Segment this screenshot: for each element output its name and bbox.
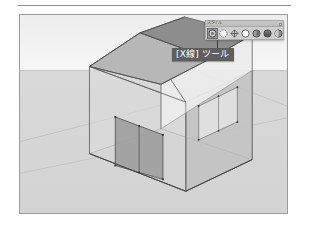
callout-label: [X線] ツール <box>172 48 234 61</box>
page-top-rule <box>18 5 291 6</box>
toolbar-title-bar[interactable]: スタイル <box>206 21 283 27</box>
house-xray-model <box>20 15 287 213</box>
hidden-line-tool-button[interactable] <box>240 28 251 39</box>
callout-text: [X線] ツール <box>176 48 230 61</box>
monochrome-icon <box>274 29 283 38</box>
xray-icon <box>208 29 217 38</box>
shaded-tool-button[interactable] <box>251 28 262 39</box>
hidden-line-icon <box>241 29 250 38</box>
toolbar-button-row <box>207 28 284 39</box>
monochrome-tool-button[interactable] <box>273 28 284 39</box>
xray-tool-button[interactable] <box>207 28 218 39</box>
close-icon[interactable] <box>279 23 282 26</box>
back-edges-icon <box>219 29 228 38</box>
styles-toolbar[interactable]: スタイル <box>205 20 284 40</box>
shaded-texture-icon <box>263 29 272 38</box>
page-root: スタイル <box>0 0 309 230</box>
wireframe-icon <box>230 29 239 38</box>
3d-model-viewport[interactable]: スタイル <box>19 14 288 214</box>
shaded-texture-tool-button[interactable] <box>262 28 273 39</box>
back-edges-tool-button[interactable] <box>218 28 229 39</box>
wireframe-tool-button[interactable] <box>229 28 240 39</box>
toolbar-title: スタイル <box>207 20 222 26</box>
shaded-icon <box>252 29 261 38</box>
